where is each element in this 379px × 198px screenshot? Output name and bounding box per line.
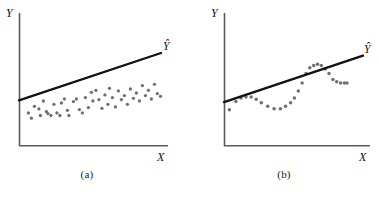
x-axis-label-a: X: [156, 150, 165, 164]
y-axis-label-b: Y: [211, 6, 219, 20]
panel-b-caption: (b): [189, 168, 379, 180]
scatter-panel-b: Y X: [189, 0, 379, 198]
fit-line-label-b: Ŷ: [364, 42, 372, 55]
figure-container: Y X: [0, 0, 379, 198]
panel-a-caption: (a): [0, 168, 182, 180]
x-axis-label-b: X: [358, 150, 367, 164]
y-axis-label-a: Y: [6, 6, 14, 20]
scatter-points-a: [27, 83, 162, 120]
fit-line-label-a: Ŷ: [163, 39, 171, 52]
scatter-points-b: [228, 62, 349, 111]
fitted-line-b: [224, 56, 363, 103]
scatter-panel-a: Y X: [0, 0, 190, 198]
fitted-line-a: [19, 53, 161, 100]
